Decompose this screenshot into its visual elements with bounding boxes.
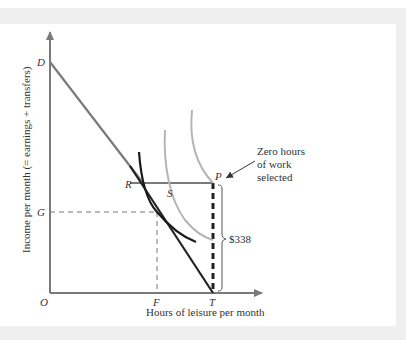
budget-line-upper — [50, 62, 143, 183]
label-d: D — [36, 56, 45, 68]
x-axis-label: Hours of leisure per month — [146, 306, 265, 318]
annotation-line-3: selected — [257, 171, 293, 183]
indifference-curve-middle — [165, 130, 213, 240]
bracket-label: $338 — [229, 233, 252, 245]
annotation-line-1: Zero hours — [257, 145, 305, 157]
indifference-curve-upper — [191, 110, 213, 183]
annotation-arrow — [226, 161, 255, 178]
annotation-line-2: of work — [257, 158, 292, 170]
labor-leisure-diagram: D G O F T R S P Zero hours of work selec… — [0, 0, 406, 340]
label-o: O — [40, 296, 48, 308]
bracket-338 — [218, 185, 226, 291]
label-p: P — [214, 170, 222, 182]
label-r: R — [124, 178, 132, 190]
label-s: S — [167, 187, 173, 199]
budget-line-lower — [130, 166, 213, 293]
label-g: G — [37, 206, 45, 218]
y-axis-label: Income per month (= earnings + transfers… — [20, 66, 33, 253]
